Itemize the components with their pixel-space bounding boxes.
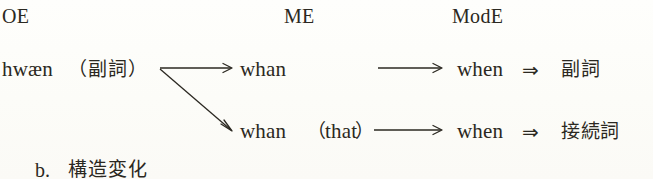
column-header-oe: OE <box>2 6 29 26</box>
caption-marker: b. <box>35 160 50 179</box>
column-header-mode: ModE <box>452 6 503 26</box>
result-label-conjunction: 接続詞 <box>561 122 620 141</box>
figure-canvas: OE ME ModE hwæn （ 副詞 ） whan when ⇒ 副詞 wh… <box>0 0 653 179</box>
me-particle-close-paren: ） <box>355 122 375 141</box>
me-particle-conjunction: that <box>325 121 357 142</box>
implies-symbol-conjunction: ⇒ <box>522 122 539 142</box>
oe-source-word: hwæn <box>2 59 53 80</box>
arrow-me-to-mode-conjunction <box>374 126 442 135</box>
oe-source-gloss-open-paren: （ <box>68 60 88 79</box>
oe-source-gloss: 副詞 <box>88 60 127 79</box>
me-particle-open-paren: （ <box>307 122 327 141</box>
arrow-oe-to-me-conjunction <box>160 69 232 131</box>
result-label-adverb: 副詞 <box>561 60 600 79</box>
paper-background <box>0 0 653 179</box>
mode-form-conjunction: when <box>457 121 503 142</box>
oe-source-gloss-close-paren: ） <box>128 60 148 79</box>
me-form-conjunction: whan <box>240 121 286 142</box>
arrow-oe-to-me-adverb <box>160 64 232 73</box>
column-header-me: ME <box>284 6 315 26</box>
mode-form-adverb: when <box>457 59 503 80</box>
caption-label: 構造変化 <box>68 160 148 179</box>
me-form-adverb: whan <box>240 59 286 80</box>
implies-symbol-adverb: ⇒ <box>522 60 539 80</box>
arrow-layer <box>0 0 653 179</box>
arrow-me-to-mode-adverb <box>378 64 442 73</box>
